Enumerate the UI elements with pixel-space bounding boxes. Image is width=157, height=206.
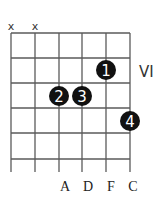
position-label: VI [139, 63, 154, 81]
finger-number: 3 [77, 88, 87, 106]
finger-dot-4: 4 [120, 111, 140, 131]
finger-dot-2: 2 [49, 86, 69, 106]
finger-dot-3: 3 [72, 86, 92, 106]
string-note-label: D [83, 179, 93, 194]
finger-number: 4 [125, 113, 135, 131]
finger-dot-1: 1 [96, 60, 116, 80]
muted-marker: x [8, 20, 15, 33]
string-note-label: A [60, 179, 71, 194]
muted-marker: x [32, 20, 39, 33]
chord-diagram: x x 1 2 3 4 VI A D F C [0, 0, 157, 206]
string-note-label: C [128, 179, 137, 194]
finger-number: 1 [101, 62, 111, 80]
finger-number: 2 [54, 88, 64, 106]
string-note-label: F [107, 179, 115, 194]
fretboard-grid [11, 33, 130, 172]
